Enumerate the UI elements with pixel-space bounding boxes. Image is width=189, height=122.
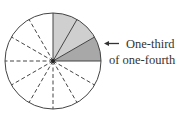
arrow-left-icon: [104, 41, 119, 46]
label-line-1: One-third: [126, 37, 175, 51]
label-line-2: of one-fourth: [109, 53, 176, 67]
center-point: [51, 59, 55, 63]
fraction-diagram: One-third of one-fourth: [0, 0, 189, 122]
